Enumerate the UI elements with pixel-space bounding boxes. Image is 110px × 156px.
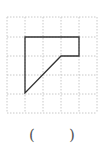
- shape-polygon: [25, 37, 79, 93]
- close-parenthesis: ): [69, 126, 75, 144]
- open-parenthesis: (: [29, 126, 35, 144]
- answer-blank[interactable]: ( ): [0, 126, 110, 146]
- grid-figure: [0, 0, 110, 120]
